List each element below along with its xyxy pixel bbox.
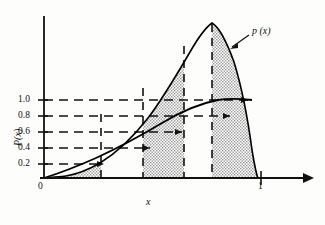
y-tick-marks — [38, 100, 48, 164]
y-axis-label: P(x) — [12, 129, 23, 146]
figure-container: 1.0 0.8 0.6 0.4 0.2 0 1 P(x) x p (x) — [0, 0, 325, 225]
annotation-arrowhead — [230, 43, 238, 49]
shaded-band-1 — [44, 0, 101, 178]
density-curve-annotation: p (x) — [252, 25, 271, 36]
y-tick-label-0p2: 0.2 — [18, 158, 30, 168]
plot-svg — [0, 0, 325, 225]
y-tick-label-0p8: 0.8 — [18, 110, 30, 120]
x-axis-arrowhead — [303, 173, 314, 183]
x-axis-label: x — [146, 196, 150, 207]
annotation-leader-line — [232, 35, 249, 47]
y-tick-label-1p0: 1.0 — [18, 94, 30, 104]
x-tick-label-one: 1 — [258, 181, 263, 191]
shaded-band-2 — [143, 0, 184, 178]
x-tick-label-zero: 0 — [38, 181, 43, 191]
